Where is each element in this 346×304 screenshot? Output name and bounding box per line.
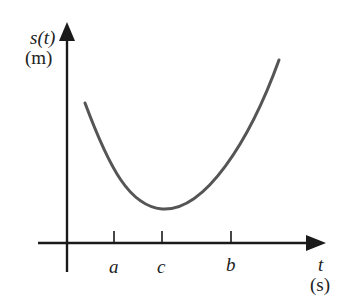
y-axis-unit: (m) — [25, 48, 52, 67]
x-axis-title: t — [318, 255, 323, 274]
tick-label-c: c — [157, 257, 165, 276]
x-axis-unit: (s) — [310, 275, 330, 294]
x-axis-arrow-icon — [306, 235, 326, 251]
tick-label-a: a — [109, 257, 119, 276]
y-axis-arrow-icon — [59, 22, 75, 41]
position-time-graph: s(t) (m) a c b t (s) — [0, 0, 346, 304]
tick-label-b: b — [226, 255, 236, 274]
y-axis-title: s(t) — [30, 28, 55, 47]
position-curve — [85, 60, 279, 209]
